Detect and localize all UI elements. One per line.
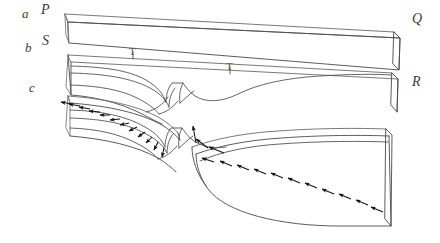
tick-label-t-prime: T <box>226 61 233 72</box>
tick-label-t: T <box>129 46 136 57</box>
row-label-b: b <box>25 41 32 54</box>
corner-label-s: S <box>42 34 49 48</box>
block-diagram-svg <box>0 0 440 243</box>
figure-canvas: a b c P S Q R T T <box>0 0 440 243</box>
row-label-c: c <box>29 81 35 94</box>
slab-bottom-c-right-traces <box>200 141 388 161</box>
slab-middle-b-shear-traces <box>71 66 391 114</box>
corner-label-r: R <box>412 75 421 89</box>
corner-label-q: Q <box>412 12 422 26</box>
row-label-a: a <box>22 7 29 20</box>
arrow-group-neck-c <box>193 126 224 153</box>
corner-label-p: P <box>41 3 50 17</box>
arrow-group-right-c <box>202 158 383 212</box>
